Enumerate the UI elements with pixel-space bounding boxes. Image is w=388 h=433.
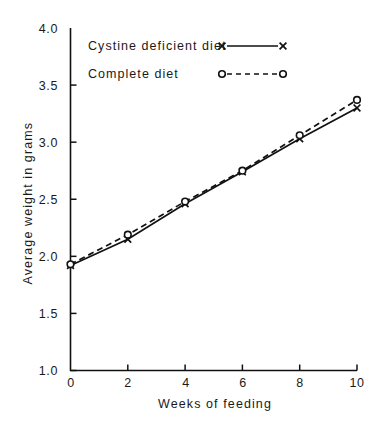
x-tick-label: 2	[113, 377, 143, 390]
data-point-marker-x	[354, 105, 361, 112]
x-tick-label: 10	[342, 377, 372, 390]
plot-canvas	[0, 0, 388, 433]
data-point-marker-circle	[67, 261, 74, 268]
x-tick-label: 0	[56, 377, 86, 390]
x-tick-label: 8	[285, 377, 315, 390]
legend-sample-complete-diet	[219, 71, 287, 78]
legend-marker-circle	[219, 71, 226, 78]
legend-marker-x	[280, 43, 287, 50]
y-tick-label: 4.0	[24, 23, 58, 36]
legend-entry-label-cystine-deficient-diet: Cystine deficient diet	[88, 40, 226, 53]
y-axis-title: Average weight in grams	[22, 88, 35, 318]
data-point-marker-circle	[125, 231, 132, 238]
data-point-marker-circle	[182, 198, 189, 205]
x-axis-title: Weeks of feeding	[70, 398, 360, 411]
legend-line-samples	[219, 43, 287, 78]
data-point-marker-circle	[296, 132, 303, 139]
legend-entry-label-complete-diet: Complete diet	[88, 68, 179, 81]
data-point-marker-circle	[239, 167, 246, 174]
data-point-marker-circle	[354, 97, 361, 104]
x-tick-label: 4	[171, 377, 201, 390]
y-tick-label: 1.0	[24, 365, 58, 378]
data-series-layer	[67, 97, 360, 269]
x-tick-label: 6	[228, 377, 258, 390]
legend-marker-circle	[280, 71, 287, 78]
y-axis-ticks	[71, 85, 77, 370]
series-line	[71, 100, 358, 264]
legend-sample-cystine-deficient-diet	[219, 43, 287, 50]
series-complete-diet	[67, 97, 360, 268]
x-axis-ticks	[128, 365, 357, 371]
figure-chart: 4.0 3.5 3.0 2.5 2.0 1.5 1.0 0 2 4 6 8 10…	[0, 0, 388, 433]
